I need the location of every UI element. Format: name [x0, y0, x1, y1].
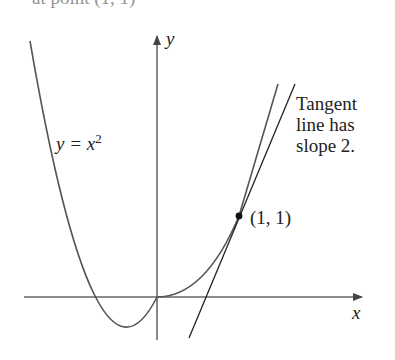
curve-label: y = x2	[56, 128, 102, 155]
y-axis-label: y	[166, 28, 174, 50]
point-1-1	[236, 213, 243, 220]
point-label: (1, 1)	[250, 207, 291, 229]
x-axis-label: x	[352, 302, 360, 324]
parabola-curve	[30, 41, 157, 327]
parabola-diagram	[0, 0, 395, 360]
tangent-label: Tangent line has slope 2.	[296, 93, 357, 156]
